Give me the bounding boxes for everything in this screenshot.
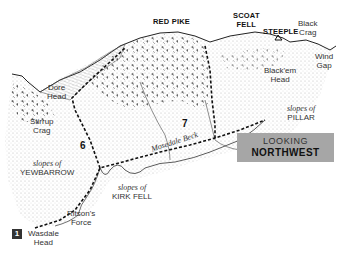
label-blackem-head: Black'em Head <box>264 66 296 84</box>
label-steeple: STEEPLE <box>263 27 299 36</box>
wind-gap-line1: Wind <box>315 52 333 61</box>
blackem-head-line2: Head <box>271 75 290 84</box>
label-slopes-yewbarrow: slopes of YEWBARROW <box>20 159 74 177</box>
wasdale-head-line2: Head <box>34 238 53 247</box>
blackem-head-line1: Black'em <box>264 66 296 75</box>
route-number-7: 7 <box>182 118 188 129</box>
slopes-yewbarrow-line2: YEWBARROW <box>20 168 74 177</box>
label-slopes-pillar: slopes of PILLAR <box>287 104 315 122</box>
black-crag-line1: Black <box>298 19 318 28</box>
slopes-pillar-line2: PILLAR <box>287 113 315 122</box>
label-red-pike: RED PIKE <box>153 17 190 26</box>
label-wind-gap: Wind Gap <box>315 52 333 70</box>
label-ritsons-force: Ritson's Force <box>67 209 95 227</box>
label-slopes-kirk-fell: slopes of KIRK FELL <box>112 183 152 201</box>
label-stirrup-crag: Stirrup Crag <box>30 117 54 135</box>
slopes-kirk-fell-line2: KIRK FELL <box>112 192 152 201</box>
label-scoat-fell: SCOAT FELL <box>233 11 260 29</box>
dore-head-line2: Head <box>47 92 66 101</box>
label-wasdale-head: Wasdale Head <box>28 229 59 247</box>
label-dore-head: Dore Head <box>47 83 66 101</box>
black-crag-line2: Crag <box>299 28 316 37</box>
direction-line2: NORTHWEST <box>237 147 334 159</box>
wind-gap-line2: Gap <box>317 61 332 70</box>
scoat-fell-line1: SCOAT <box>233 11 260 20</box>
route-number-6: 6 <box>80 140 86 151</box>
stirrup-crag-line1: Stirrup <box>30 117 54 126</box>
dore-head-line1: Dore <box>48 83 65 92</box>
scoat-fell-line2: FELL <box>237 20 257 29</box>
ritsons-force-line1: Ritson's <box>67 209 95 218</box>
direction-line1: LOOKING <box>237 136 334 147</box>
label-black-crag: Black Crag <box>298 19 318 37</box>
direction-box: LOOKING NORTHWEST <box>237 133 334 162</box>
ritsons-force-line2: Force <box>71 218 91 227</box>
wasdale-head-line1: Wasdale <box>28 229 59 238</box>
start-point-badge: 1 <box>12 229 22 239</box>
stirrup-crag-line2: Crag <box>33 126 50 135</box>
slopes-yewbarrow-line1: slopes of <box>33 159 61 168</box>
slopes-pillar-line1: slopes of <box>287 104 315 113</box>
slopes-kirk-fell-line1: slopes of <box>118 183 146 192</box>
